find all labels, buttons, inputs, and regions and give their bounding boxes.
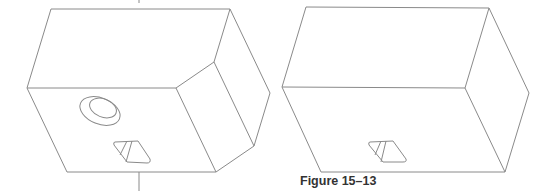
slot-1 bbox=[114, 141, 151, 163]
slot-1-line-b bbox=[126, 141, 132, 162]
block-1-chamfer-top bbox=[176, 9, 230, 88]
hole-inner bbox=[87, 94, 120, 121]
slot-1-line-a bbox=[120, 141, 127, 155]
block-2-outline bbox=[282, 7, 529, 172]
slot-2-line-a bbox=[375, 141, 381, 155]
block-view-1 bbox=[27, 0, 270, 191]
figure-caption: Figure 15–13 bbox=[300, 174, 376, 188]
hole-outer bbox=[76, 91, 125, 131]
block-1-front-right-edge bbox=[176, 88, 216, 172]
block-1-chamfer-edge bbox=[214, 62, 254, 146]
block-2-top-right-edge bbox=[465, 8, 489, 88]
block-2-front-right-edge bbox=[465, 88, 505, 172]
technical-drawing bbox=[0, 0, 549, 191]
block-1-outline bbox=[27, 9, 270, 172]
block-2-front-top-edge bbox=[282, 87, 465, 88]
slot-2 bbox=[369, 141, 407, 162]
slot-2-line-b bbox=[381, 141, 386, 162]
block-view-2 bbox=[282, 7, 529, 172]
